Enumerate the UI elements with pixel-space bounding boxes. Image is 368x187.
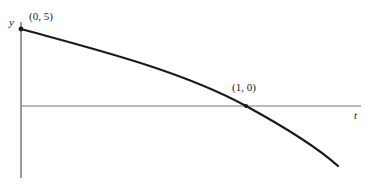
point-marker-1-0 xyxy=(244,104,248,108)
point-label-root: (1, 0) xyxy=(232,82,256,93)
graph-canvas xyxy=(0,0,368,187)
point-marker-0-5 xyxy=(19,27,24,32)
function-graph: y t (0, 5) (1, 0) xyxy=(0,0,368,187)
point-label-start: (0, 5) xyxy=(29,11,53,22)
function-curve xyxy=(21,29,338,166)
y-axis-label: y xyxy=(9,17,14,28)
x-axis-label: t xyxy=(354,110,357,121)
